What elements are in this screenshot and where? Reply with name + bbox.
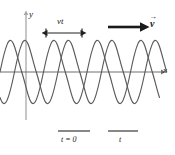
legend-label-t0: t = 0	[61, 136, 77, 144]
velocity-label: →v	[150, 19, 154, 29]
legend-label-t: t	[119, 136, 121, 144]
vector-overbar-arrow-icon: →	[149, 14, 158, 19]
vt-label: vt	[57, 17, 64, 26]
y-axis-label: y	[29, 10, 33, 19]
vt-measurement-arrow	[46, 29, 82, 38]
wave-diagram-canvas	[0, 0, 175, 155]
x-axis-label: x	[163, 66, 167, 75]
wave-diagram-figure: y x vt →v t = 0 t	[0, 0, 175, 155]
